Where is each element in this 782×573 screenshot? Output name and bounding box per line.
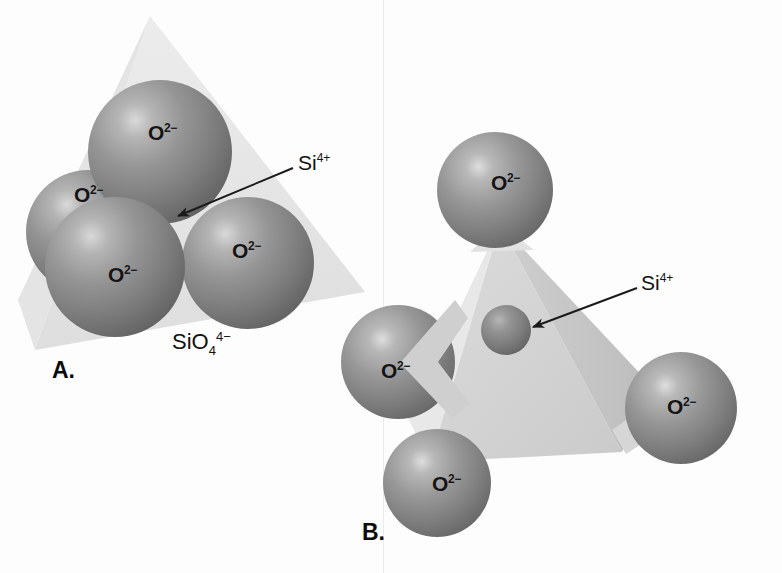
panel-letter-a: A. (52, 359, 75, 382)
atom-label-a-top: O2− (148, 122, 177, 143)
atom-label-b-bottom: O2− (432, 473, 461, 494)
oxygen-sphere-a-right (182, 197, 314, 329)
atom-label-a-front-left: O2− (108, 264, 137, 285)
atom-label-b-right: O2− (667, 396, 696, 417)
atom-label-b-left: O2− (381, 360, 410, 381)
callout-label-b-silicon: Si4+ (641, 272, 673, 293)
panel-letter-b: B. (362, 521, 385, 544)
atom-label-b-top: O2− (491, 172, 520, 193)
formula-label-silicate: SiO44− (172, 330, 231, 357)
callout-label-a-silicon: Si4+ (298, 152, 330, 173)
silicon-sphere-b-center (481, 305, 531, 355)
silicate-tetrahedron-figure: O2− O2− O2− O2− Si4+ SiO44− A. O2− O2− O… (0, 0, 782, 573)
panel-a-atoms (26, 80, 314, 337)
atom-label-a-back-left: O2− (74, 184, 103, 205)
atom-label-a-right: O2− (232, 240, 261, 261)
